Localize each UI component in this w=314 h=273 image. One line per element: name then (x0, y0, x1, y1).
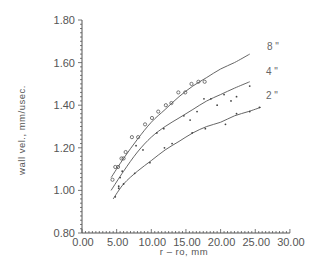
data-point (191, 132, 193, 134)
x-tick-label: 5.00 (107, 236, 128, 248)
data-point (177, 91, 180, 94)
data-point (149, 162, 151, 164)
data-point (204, 128, 206, 130)
data-point (156, 132, 158, 134)
data-point (119, 177, 121, 179)
data-point (111, 178, 114, 181)
chart: 0.801.001.201.401.601.800.005.0010.0015.… (0, 0, 314, 273)
data-point (203, 98, 205, 100)
data-point (249, 111, 251, 113)
data-point (114, 196, 116, 198)
data-point (123, 183, 125, 185)
data-point (135, 145, 137, 147)
data-point (189, 119, 191, 121)
data-point (230, 100, 232, 102)
y-tick-label: 1.60 (54, 57, 75, 69)
data-point (157, 110, 160, 113)
y-tick-label: 1.80 (54, 14, 75, 26)
series-labels: 8 "4 "2 " (266, 41, 279, 101)
data-point (143, 123, 146, 126)
fit-curve (111, 82, 250, 191)
data-points (111, 80, 260, 198)
axes (82, 20, 290, 233)
x-tick-label: 0.00 (72, 236, 93, 248)
axis-ticks (78, 20, 290, 233)
data-point (183, 115, 185, 117)
data-point (216, 104, 218, 106)
data-point (118, 187, 120, 189)
data-point (130, 136, 133, 139)
y-tick-label: 1.20 (54, 142, 75, 154)
y-axis-title: wall vel., mm/usec. (16, 85, 27, 176)
data-point (163, 128, 165, 130)
data-point (124, 150, 127, 153)
series-label: 2 " (266, 90, 278, 101)
data-point (236, 113, 238, 115)
data-point (164, 147, 166, 149)
y-tick-label: 1.00 (54, 184, 75, 196)
data-point (121, 170, 123, 172)
data-point (223, 94, 225, 96)
series-label: 8 " (267, 41, 279, 52)
x-tick-label: 25.00 (242, 236, 270, 248)
y-tick-label: 1.40 (54, 99, 75, 111)
data-point (171, 143, 173, 145)
x-tick-label: 20.00 (208, 236, 236, 248)
data-point (259, 106, 261, 108)
data-point (203, 80, 206, 83)
data-point (150, 116, 153, 119)
data-point (236, 96, 238, 98)
series-label: 4 " (266, 66, 278, 77)
data-point (142, 149, 144, 151)
data-point (190, 82, 193, 85)
fit-curve (113, 107, 261, 199)
x-tick-label: 30.00 (277, 236, 305, 248)
x-axis-title: r – ro, mm (160, 246, 208, 257)
data-point (134, 172, 136, 174)
fit-curves (111, 54, 261, 199)
data-point (210, 98, 212, 100)
data-point (196, 111, 198, 113)
data-point (225, 123, 227, 125)
data-point (164, 104, 167, 107)
data-point (118, 185, 120, 187)
data-point (249, 85, 251, 87)
